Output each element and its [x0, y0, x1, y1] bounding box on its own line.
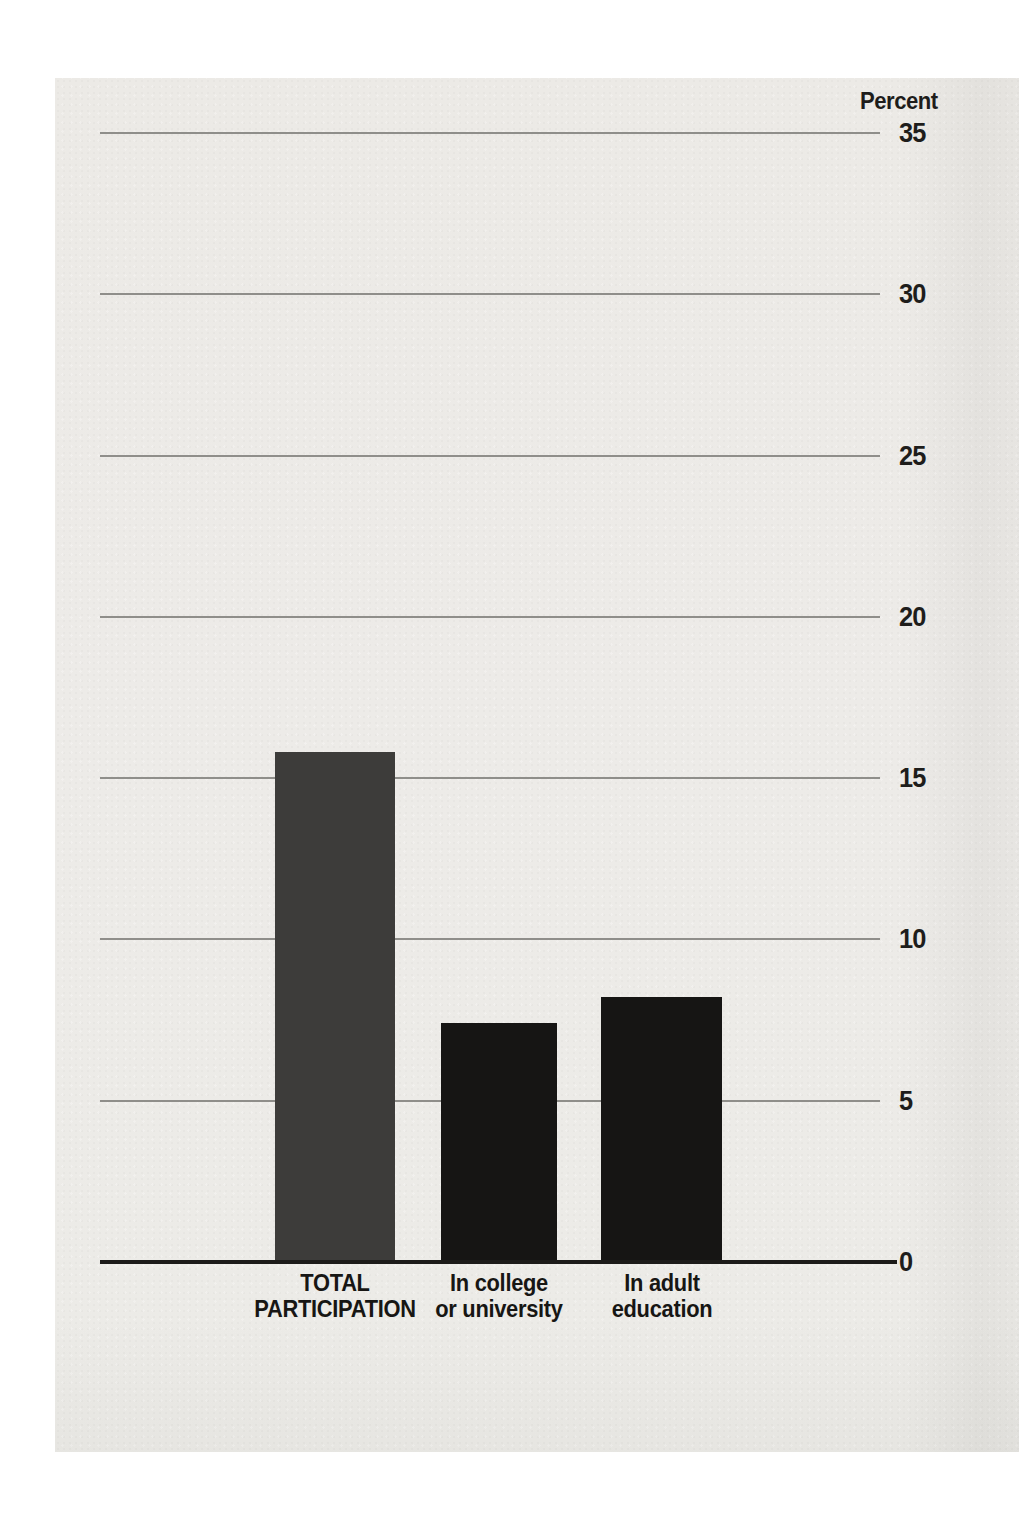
bar-chart: Percent 05101520253035TOTAL PARTICIPATIO…: [0, 0, 1019, 1514]
category-label-in-college-or-university: In college or university: [435, 1270, 562, 1322]
bar-in-adult-education: [601, 997, 722, 1262]
y-tick-label-25: 25: [899, 441, 955, 471]
y-tick-label-15: 15: [899, 763, 955, 793]
y-tick-label-10: 10: [899, 924, 955, 954]
bar-total-participation: [275, 752, 395, 1262]
y-axis-title: Percent: [860, 88, 933, 115]
gridline-35: [100, 132, 880, 134]
y-tick-label-0: 0: [899, 1247, 955, 1277]
gridline-30: [100, 293, 880, 295]
gridline-25: [100, 455, 880, 457]
bar-in-college-or-university: [441, 1023, 557, 1262]
gridline-20: [100, 616, 880, 618]
y-tick-label-20: 20: [899, 602, 955, 632]
x-axis-baseline: [100, 1260, 897, 1264]
category-label-total-participation: TOTAL PARTICIPATION: [254, 1270, 415, 1322]
y-tick-label-35: 35: [899, 118, 955, 148]
gridline-15: [100, 777, 880, 779]
y-tick-label-5: 5: [899, 1086, 955, 1116]
y-tick-label-30: 30: [899, 279, 955, 309]
category-label-in-adult-education: In adult education: [611, 1270, 712, 1322]
gridline-10: [100, 938, 880, 940]
